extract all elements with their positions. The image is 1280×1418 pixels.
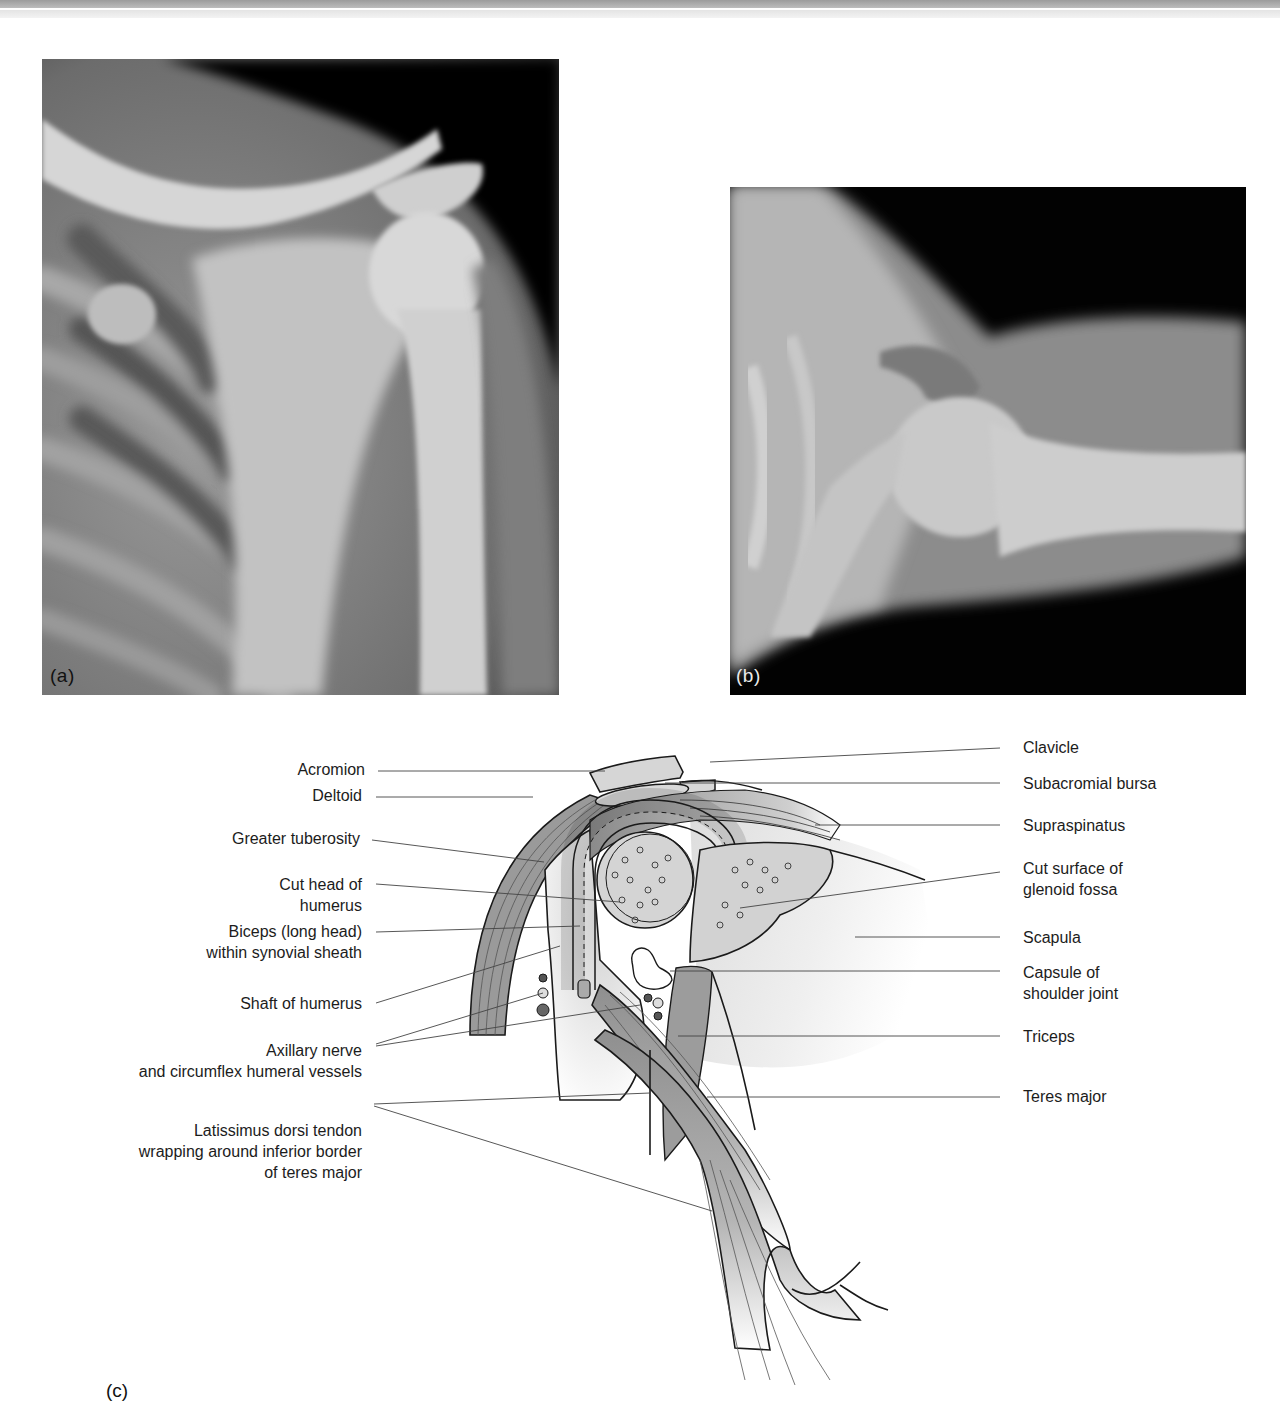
shoulder-anatomy-diagram: Acromion Deltoid Greater tuberosity Cut … <box>0 700 1280 1418</box>
xray-a-image <box>42 59 559 695</box>
label-axillary-nerve: Axillary nerve and circumflex humeral ve… <box>139 1040 362 1082</box>
xray-b-image <box>730 187 1246 695</box>
label-capsule-shoulder-joint: Capsule of shoulder joint <box>1023 962 1118 1004</box>
label-greater-tuberosity: Greater tuberosity <box>232 828 360 849</box>
panel-label-c: (c) <box>106 1380 128 1402</box>
label-glenoid-fossa: Cut surface of glenoid fossa <box>1023 858 1123 900</box>
panel-label-b: (b) <box>736 665 761 687</box>
label-triceps: Triceps <box>1023 1026 1075 1047</box>
label-clavicle: Clavicle <box>1023 737 1079 758</box>
label-deltoid: Deltoid <box>312 785 362 806</box>
panel-label-a: (a) <box>50 665 75 687</box>
label-supraspinatus: Supraspinatus <box>1023 815 1125 836</box>
xray-panel-b: (b) <box>730 187 1246 695</box>
xray-panel-a: (a) <box>42 59 559 695</box>
label-teres-major: Teres major <box>1023 1086 1107 1107</box>
label-scapula: Scapula <box>1023 927 1081 948</box>
label-latissimus-dorsi: Latissimus dorsi tendon wrapping around … <box>139 1120 362 1183</box>
page-header-shadow <box>0 10 1280 18</box>
label-acromion: Acromion <box>297 759 365 780</box>
label-cut-head-of-humerus: Cut head of humerus <box>279 874 362 916</box>
label-subacromial-bursa: Subacromial bursa <box>1023 773 1156 794</box>
page-header-band <box>0 0 1280 8</box>
label-shaft-of-humerus: Shaft of humerus <box>240 993 362 1014</box>
label-biceps-long-head: Biceps (long head) within synovial sheat… <box>206 921 362 963</box>
